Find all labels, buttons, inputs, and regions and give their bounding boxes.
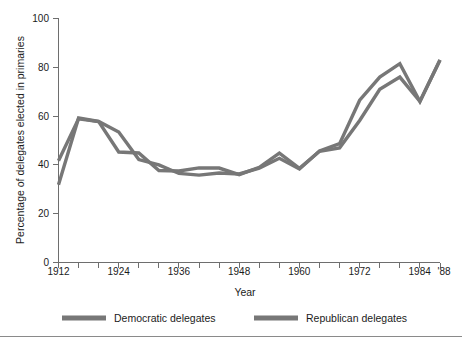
y-axis-ticks: 100 80 60 40 20 0 <box>32 13 58 268</box>
legend-label-republican: Republican delegates <box>306 312 407 324</box>
x-axis-title: Year <box>234 286 256 298</box>
legend-label-democratic: Democratic delegates <box>114 312 216 324</box>
line-chart: 100 80 60 40 20 0 1912 1924 1936 1948 19… <box>0 0 462 345</box>
series-line-republican-delegates <box>59 60 441 175</box>
chart-legend: Democratic delegates Republican delegate… <box>62 312 407 324</box>
x-axis-tick-labels: 1912 1924 1936 1948 1960 1972 1984 '88 <box>47 266 451 277</box>
y-axis-title: Percentage of delegates elected in prima… <box>14 36 26 244</box>
chart-figure: 100 80 60 40 20 0 1912 1924 1936 1948 19… <box>0 0 462 345</box>
x-tick-label-1924: 1924 <box>108 266 131 277</box>
x-tick-label-1972: 1972 <box>348 266 371 277</box>
y-tick-label-20: 20 <box>38 208 50 219</box>
series-line-democratic-delegates <box>59 60 441 185</box>
x-tick-label-1948: 1948 <box>228 266 251 277</box>
y-tick-label-100: 100 <box>32 13 49 24</box>
y-tick-label-60: 60 <box>38 111 50 122</box>
series-group <box>59 60 441 185</box>
x-tick-label-1912: 1912 <box>47 266 70 277</box>
x-tick-label-1984: 1984 <box>409 266 432 277</box>
x-tick-label-1988: '88 <box>437 266 450 277</box>
x-tick-label-1936: 1936 <box>168 266 191 277</box>
y-tick-label-40: 40 <box>38 159 50 170</box>
x-tick-label-1960: 1960 <box>288 266 311 277</box>
y-tick-label-80: 80 <box>38 62 50 73</box>
